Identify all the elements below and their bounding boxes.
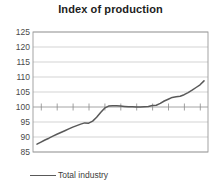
- x-tick-label: 2002: [127, 157, 146, 158]
- x-tick-label: 2006: [191, 157, 210, 158]
- y-tick-label: 100: [16, 102, 30, 112]
- y-tick-label: 110: [16, 72, 30, 82]
- legend-label-total-industry: Total industry: [58, 170, 108, 180]
- chart-legend: Total industry: [30, 167, 108, 183]
- y-tick-label: 105: [16, 87, 30, 97]
- x-tick-label: 2000: [95, 157, 114, 158]
- y-tick-label: 95: [21, 117, 31, 127]
- y-tick-label: 85: [21, 147, 31, 157]
- y-tick-label: 90: [21, 132, 31, 142]
- x-tick-label: 1998: [64, 157, 83, 158]
- plot-area: 125 120 115 110 105 100 95 90 85 1996 19…: [0, 28, 221, 158]
- y-axis-labels: 125 120 115 110 105 100 95 90 85: [16, 28, 30, 157]
- y-tick-label: 125: [16, 28, 30, 37]
- y-tick-label: 120: [16, 42, 30, 52]
- y-tick-label: 115: [16, 57, 30, 67]
- index-of-production-chart: Index of production: [0, 0, 221, 187]
- chart-title: Index of production: [0, 3, 221, 15]
- legend-line-swatch: [30, 175, 56, 176]
- x-tick-label: 1996: [32, 157, 51, 158]
- plot-svg: 125 120 115 110 105 100 95 90 85 1996 19…: [0, 28, 221, 158]
- x-tick-label: 2004: [159, 157, 178, 158]
- x-axis-labels: 1996 1998 2000 2002 2004 2006: [32, 157, 210, 158]
